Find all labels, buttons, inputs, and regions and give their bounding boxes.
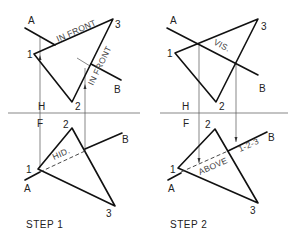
label-point-3-front: 3 [106, 208, 112, 219]
annotation-1-2-3: 1-2-3 [237, 136, 261, 154]
label-point-3: 3 [115, 19, 121, 30]
label-point-2-front: 2 [63, 119, 69, 130]
label-point-1: 1 [167, 48, 173, 59]
label-b: B [114, 84, 121, 95]
arrow-up-icon [84, 84, 87, 89]
label-b: B [259, 83, 266, 94]
annotation-in-front-1: IN FRONT [55, 17, 98, 43]
tick-mark [77, 58, 90, 66]
annotation-above: ABOVE [197, 155, 229, 177]
top-triangle [175, 19, 258, 102]
label-point-3-front: 3 [250, 205, 256, 216]
annotation-vis: VIS. [212, 37, 232, 54]
visibility-diagram: A B 1 3 2 H IN FRONT IN FRONT F 2 HID. 1… [0, 0, 296, 237]
label-a: A [28, 15, 35, 26]
label-a-front: A [24, 183, 31, 194]
label-f: F [37, 118, 43, 129]
step2-group: A B 1 3 2 H VIS. F 2 ABOVE 1-2-3 1 A B 3… [167, 15, 275, 230]
label-h: H [38, 101, 45, 112]
step1-caption: STEP 1 [26, 219, 63, 230]
annotation-hid: HID. [51, 145, 72, 162]
step2-caption: STEP 2 [170, 219, 207, 230]
label-point-2-front: 2 [205, 119, 211, 130]
arrow-down-icon [198, 158, 201, 163]
label-b-front: B [268, 132, 275, 143]
label-point-3: 3 [261, 21, 267, 32]
label-h: H [182, 101, 189, 112]
label-point-1-front: 1 [26, 164, 32, 175]
label-point-2: 2 [219, 101, 225, 112]
front-triangle [38, 128, 115, 206]
step1-group: A B 1 3 2 H IN FRONT IN FRONT F 2 HID. 1… [24, 15, 129, 230]
label-point-2: 2 [75, 101, 81, 112]
label-point-1-front: 1 [170, 164, 176, 175]
label-a: A [170, 15, 177, 26]
arrow-down-icon [235, 137, 238, 142]
label-a-front: A [168, 183, 175, 194]
label-point-1: 1 [27, 49, 33, 60]
label-f: F [183, 118, 189, 129]
line-ab-front-seg2 [85, 133, 122, 149]
label-b-front: B [122, 134, 129, 145]
